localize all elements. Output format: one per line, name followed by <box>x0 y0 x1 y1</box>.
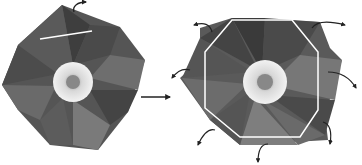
curved-arrow-icon <box>258 144 268 162</box>
origami-diagram <box>0 0 362 165</box>
unfolded-flower-after <box>172 18 356 162</box>
folded-flower-before <box>2 2 145 150</box>
curved-arrow-icon <box>198 130 215 145</box>
